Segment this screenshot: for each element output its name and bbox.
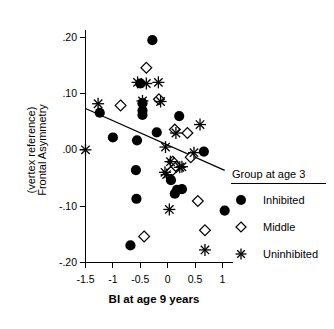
- data-point-inhibited: [125, 240, 135, 250]
- chart-canvas: Frontal Asymmetry (vertex reference) .20…: [0, 0, 334, 329]
- data-point-uninhibited: [152, 76, 164, 88]
- legend-marker-inhibited: [236, 195, 246, 205]
- data-point-inhibited: [152, 127, 162, 137]
- legend-marker-uninhibited: [236, 249, 247, 260]
- data-point-inhibited: [131, 194, 141, 204]
- data-point-uninhibited: [160, 141, 172, 153]
- y-axis-title: Frontal Asymmetry (vertex reference): [25, 104, 48, 196]
- data-point-uninhibited: [155, 96, 167, 108]
- y-tick-label-1: .10: [62, 87, 77, 99]
- scatter-plot-figure: Frontal Asymmetry (vertex reference) .20…: [0, 0, 334, 329]
- x-tick-label-4: 0.5: [188, 273, 203, 285]
- data-point-inhibited: [172, 185, 182, 195]
- data-point-middle: [200, 225, 211, 236]
- data-point-inhibited: [199, 146, 209, 156]
- data-point-inhibited: [108, 132, 118, 142]
- y-tick-label-2: .00: [62, 143, 77, 155]
- y-tick-label-4: -.20: [59, 256, 77, 268]
- data-point-middle: [192, 196, 203, 207]
- data-point-middle: [139, 231, 150, 242]
- data-point-inhibited: [135, 78, 145, 88]
- data-point-uninhibited: [163, 203, 175, 215]
- regression-trendline: [86, 109, 225, 171]
- data-point-uninhibited: [176, 161, 188, 173]
- legend-marker-middle: [236, 222, 246, 232]
- data-point-uninhibited: [194, 119, 206, 131]
- legend-label-uninhibited: Uninhibited: [263, 248, 318, 260]
- legend: Group at age 3 Inhibited Middle Uninhibi…: [231, 168, 326, 260]
- y-axis-title-line2: (vertex reference): [25, 107, 37, 194]
- y-axis-title-line1: Frontal Asymmetry: [36, 104, 48, 196]
- y-tick-label-0: .20: [62, 31, 77, 43]
- data-point-inhibited: [174, 111, 184, 121]
- data-point-inhibited: [131, 165, 141, 175]
- data-point-middle: [182, 128, 193, 139]
- x-tick-label-1: -1: [108, 273, 117, 285]
- x-axis-title: BI at age 9 years: [109, 293, 200, 305]
- data-point-uninhibited: [170, 127, 182, 139]
- x-tick-label-0: -1.5: [76, 273, 94, 285]
- data-point-inhibited: [166, 175, 176, 185]
- x-tick-label-2: -0.5: [131, 273, 149, 285]
- data-point-uninhibited: [199, 244, 211, 256]
- y-tick-label-3: -.10: [59, 200, 77, 212]
- x-tick-label-5: 1: [220, 273, 226, 285]
- data-point-inhibited: [147, 35, 157, 45]
- data-points-layer: [80, 35, 230, 256]
- data-point-uninhibited: [80, 144, 92, 156]
- data-point-inhibited: [95, 108, 105, 118]
- data-point-middle: [115, 100, 126, 111]
- data-point-inhibited: [132, 135, 142, 145]
- x-axis-ticks: -1.5 -1 -0.5 0 0.5 1: [76, 263, 225, 286]
- data-point-inhibited: [220, 205, 230, 215]
- legend-label-middle: Middle: [263, 221, 295, 233]
- legend-label-inhibited: Inhibited: [263, 194, 305, 206]
- legend-title: Group at age 3: [232, 168, 305, 180]
- data-point-uninhibited: [188, 147, 200, 159]
- data-point-middle: [141, 62, 152, 73]
- x-tick-label-3: 0: [165, 273, 171, 285]
- data-point-inhibited: [137, 110, 147, 120]
- data-point-uninhibited: [164, 156, 176, 168]
